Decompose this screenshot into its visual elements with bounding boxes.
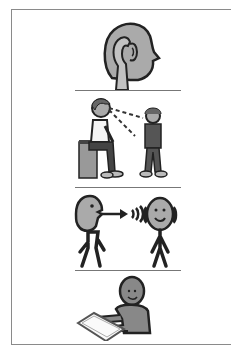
speak-listen-icon bbox=[72, 192, 184, 270]
panel-look-at-person bbox=[75, 96, 175, 180]
panel-listen bbox=[100, 18, 162, 90]
panel-speak-to-person bbox=[72, 192, 184, 270]
divider-2 bbox=[75, 187, 181, 188]
ear-listen-icon bbox=[100, 18, 162, 90]
panel-do-work bbox=[76, 275, 158, 341]
divider-3 bbox=[75, 270, 181, 271]
look-at-person-icon bbox=[75, 96, 175, 180]
desk-work-icon bbox=[76, 275, 158, 341]
divider-1 bbox=[75, 90, 181, 91]
